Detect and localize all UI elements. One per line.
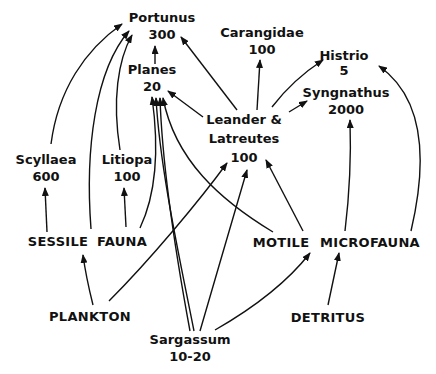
node-name-2: Latreutes (206, 129, 282, 148)
node-detritus: DETRITUS (291, 309, 366, 326)
node-leander-latreutes: Leander & Latreutes 100 (206, 110, 282, 167)
edge-sessile-scyllaea (45, 188, 47, 232)
node-litiopa: Litiopa 100 (102, 151, 152, 185)
node-name: Syngnathus (303, 84, 390, 101)
node-histrio: Histrio 5 (319, 48, 368, 78)
node-name: Histrio (319, 48, 368, 63)
node-plankton: PLANKTON (49, 308, 131, 325)
node-name: MOTILE (253, 234, 310, 251)
node-fauna: FAUNA (97, 233, 147, 250)
edge-microfauna-syngnathus (345, 120, 350, 231)
node-microfauna: MICROFAUNA (320, 234, 420, 251)
node-motile: MOTILE (253, 234, 310, 251)
node-name: Planes (128, 61, 177, 78)
node-name: Carangidae (220, 24, 303, 41)
node-name: DETRITUS (291, 309, 366, 326)
node-carangidae: Carangidae 100 (220, 24, 303, 58)
node-value: 600 (16, 168, 77, 185)
edge-sargassum-leander (200, 170, 247, 331)
edge-sargassum-planes-2 (160, 98, 190, 331)
edge-fauna-litiopa (124, 188, 126, 227)
node-portunus: Portunus 300 (129, 9, 196, 43)
node-scyllaea: Scyllaea 600 (16, 151, 77, 185)
node-name: Scyllaea (16, 151, 77, 168)
node-value: 300 (129, 26, 196, 43)
node-syngnathus: Syngnathus 2000 (303, 84, 390, 118)
edge-motile-leander (266, 160, 303, 231)
node-value: 10-20 (150, 348, 231, 365)
node-value: 20 (128, 78, 177, 95)
node-value: 100 (206, 148, 282, 167)
node-value: 100 (220, 41, 303, 58)
food-web-diagram: Portunus 300 Carangidae 100 Histrio 5 Pl… (0, 0, 436, 374)
node-value: 5 (319, 63, 368, 78)
node-name: Sargassum (150, 331, 231, 348)
edge-scyllaea-portunus (51, 24, 122, 144)
node-value: 2000 (303, 101, 390, 118)
node-name: MICROFAUNA (320, 234, 420, 251)
node-name: PLANKTON (49, 308, 131, 325)
node-name: Portunus (129, 9, 196, 26)
node-sargassum: Sargassum 10-20 (150, 331, 231, 365)
edge-leander-carangidae (257, 60, 260, 110)
node-name: Leander & (206, 110, 282, 129)
node-name: SESSILE (28, 233, 89, 250)
node-name: Litiopa (102, 151, 152, 168)
node-value: 100 (102, 168, 152, 185)
edge-plankton-sessile (83, 255, 93, 305)
node-sessile: SESSILE (28, 233, 89, 250)
node-name: FAUNA (97, 233, 147, 250)
node-planes: Planes 20 (128, 61, 177, 95)
edge-detritus-microfauna (328, 253, 339, 305)
edge-sessile-portunus (89, 31, 129, 229)
